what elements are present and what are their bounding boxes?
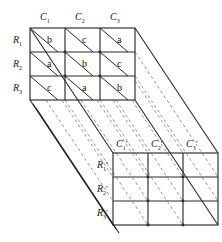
- bottom-column-label-3: C3′: [186, 139, 198, 151]
- bottom-row-label-2: R2′: [97, 184, 108, 196]
- top-row-label-1: R1: [13, 35, 22, 47]
- top-row-label-3: R3: [13, 83, 22, 95]
- bottom-row-label-3: R3′: [97, 208, 108, 220]
- top-column-label-1: C1: [40, 12, 50, 24]
- top-cell-r2c3: c: [117, 59, 121, 69]
- top-cell-r2c1: a: [47, 59, 51, 69]
- top-cell-r1c1: b: [47, 35, 52, 45]
- top-column-label-2: C2: [75, 12, 85, 24]
- bottom-column-label-1: C1′: [116, 139, 128, 151]
- bottom-column-label-2: C2′: [151, 139, 163, 151]
- prism-drawing: [0, 0, 222, 242]
- bottom-face-grid: [113, 153, 218, 225]
- top-cell-r1c2: c: [82, 35, 86, 45]
- latin-square-prism-figure: C1 C2 C3 R1 R2 R3 b c a a b c c a b C1′ …: [0, 0, 222, 242]
- top-cell-r2c2: b: [82, 59, 87, 69]
- top-row-label-2: R2: [13, 59, 22, 71]
- top-cell-r3c3: b: [117, 83, 122, 93]
- top-cell-r3c1: c: [47, 83, 51, 93]
- top-cell-r3c2: a: [82, 83, 86, 93]
- top-column-label-3: C3: [110, 12, 120, 24]
- bottom-row-label-1: R1′: [97, 160, 108, 172]
- top-cell-r1c3: a: [117, 35, 121, 45]
